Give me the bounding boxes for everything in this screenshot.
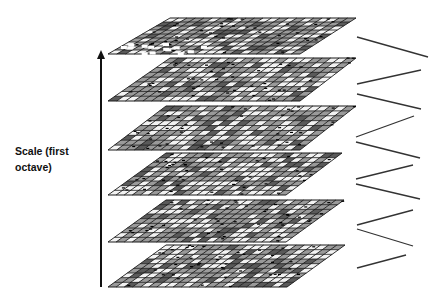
- scale-axis-label-line2: octave): [15, 159, 69, 175]
- zigzag-segment-9: [357, 229, 413, 246]
- zigzag-segment-8: [357, 210, 413, 225]
- difference-zigzag-lines: [356, 37, 428, 268]
- scale-layer-4: [108, 153, 342, 195]
- scale-layer-6: [108, 245, 345, 287]
- scale-layer-3: [108, 106, 356, 150]
- zigzag-segment-4: [356, 116, 414, 137]
- arrow-head-icon: [97, 50, 105, 59]
- scale-axis-label-line1: Scale (first: [15, 143, 69, 159]
- zigzag-segment-5: [356, 142, 420, 158]
- zigzag-segment-1: [357, 37, 428, 57]
- scale-layer-5: [108, 200, 344, 242]
- scale-axis-label: Scale (first octave): [15, 143, 69, 175]
- zigzag-segment-10: [357, 255, 406, 268]
- zigzag-segment-2: [357, 70, 421, 84]
- zigzag-segment-3: [357, 94, 421, 109]
- scale-axis-arrow: [97, 50, 105, 287]
- zigzag-segment-6: [356, 165, 413, 179]
- scale-layers: [108, 18, 356, 287]
- scale-layer-2: [108, 58, 356, 101]
- zigzag-segment-7: [356, 184, 420, 199]
- scale-layer-1: [108, 18, 356, 55]
